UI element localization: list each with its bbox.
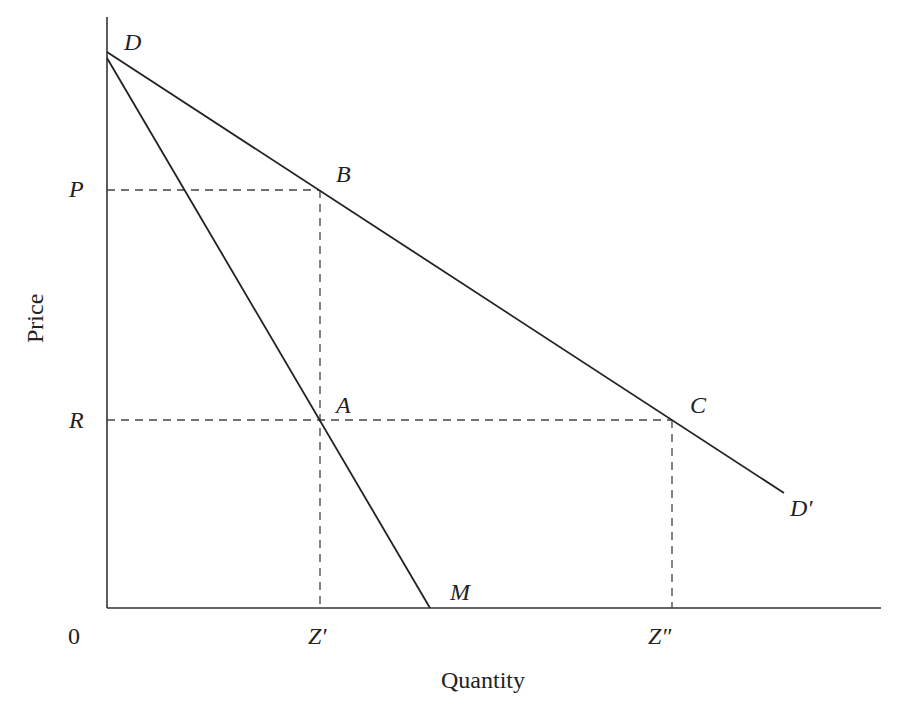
label-p: P bbox=[68, 176, 84, 202]
label-origin: 0 bbox=[68, 623, 80, 649]
label-d-prime: D′ bbox=[789, 495, 813, 521]
demand-curve bbox=[107, 52, 784, 493]
y-axis-title: Price bbox=[22, 294, 48, 343]
label-d: D bbox=[123, 29, 141, 55]
label-m: M bbox=[449, 579, 472, 605]
label-c: C bbox=[690, 392, 707, 418]
label-r: R bbox=[68, 407, 84, 433]
x-axis-title: Quantity bbox=[441, 667, 525, 693]
label-z-double-prime: Z″ bbox=[648, 623, 672, 649]
label-b: B bbox=[336, 161, 351, 187]
price-quantity-diagram: D B A C D′ M P R 0 Z′ Z″ Quantity Price bbox=[0, 0, 903, 726]
marginal-revenue-curve bbox=[107, 58, 430, 608]
label-a: A bbox=[334, 392, 351, 418]
label-z-prime: Z′ bbox=[308, 623, 327, 649]
